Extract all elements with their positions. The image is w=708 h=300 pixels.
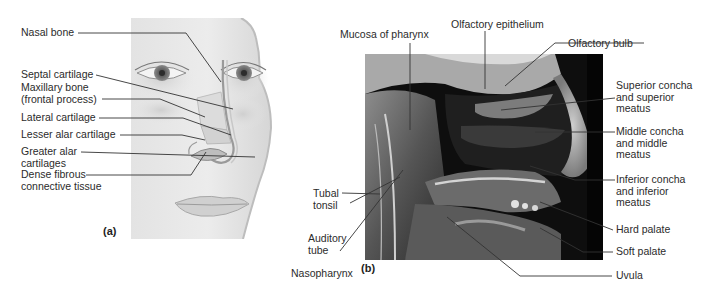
label-maxillary-bone: Maxillary bone (frontal process) — [21, 82, 97, 105]
label-dense-fibrous-line-2: connective tissue — [21, 181, 102, 193]
face-illustration — [131, 18, 292, 239]
label-superior-concha-line-1: Superior concha — [616, 80, 692, 92]
label-soft-palate: Soft palate — [616, 246, 666, 258]
label-auditory-tube-line-1: Auditory — [308, 233, 347, 245]
label-tubal-tonsil-line-2: tonsil — [313, 200, 339, 212]
label-tubal-tonsil: Tubal tonsil — [313, 188, 339, 211]
label-inferior-concha-line-1: Inferior concha — [616, 174, 685, 186]
label-greater-alar-cartilages: Greater alar cartilages — [21, 146, 77, 169]
panel-b-letter: (b) — [361, 262, 375, 274]
label-middle-concha-line-3: meatus — [616, 149, 684, 161]
label-lateral-cartilage: Lateral cartilage — [21, 112, 96, 124]
label-hard-palate: Hard palate — [616, 224, 670, 236]
label-auditory-tube-line-2: tube — [308, 245, 347, 257]
label-auditory-tube: Auditory tube — [308, 233, 347, 256]
label-greater-alar-line-1: Greater alar — [21, 146, 77, 158]
label-maxillary-bone-line-1: Maxillary bone — [21, 82, 97, 94]
label-inferior-concha: Inferior concha and inferior meatus — [616, 174, 685, 209]
label-olfactory-epithelium: Olfactory epithelium — [451, 19, 544, 31]
label-dense-fibrous-line-1: Dense fibrous — [21, 169, 102, 181]
label-uvula: Uvula — [616, 270, 643, 282]
label-inferior-concha-line-3: meatus — [616, 197, 685, 209]
label-maxillary-bone-line-2: (frontal process) — [21, 94, 97, 106]
label-middle-concha-line-1: Middle concha — [616, 126, 684, 138]
label-lesser-alar-cartilage: Lesser alar cartilage — [21, 129, 116, 141]
label-septal-cartilage: Septal cartilage — [21, 69, 93, 81]
anatomy-figure: Nasal bone Septal cartilage Maxillary bo… — [0, 0, 708, 300]
label-superior-concha: Superior concha and superior meatus — [616, 80, 692, 115]
label-nasal-bone: Nasal bone — [21, 27, 74, 39]
label-superior-concha-line-3: meatus — [616, 103, 692, 115]
label-nasopharynx: Nasopharynx — [291, 268, 353, 280]
label-mucosa-of-pharynx: Mucosa of pharynx — [340, 29, 429, 41]
dissection-photo — [365, 54, 603, 260]
label-olfactory-bulb: Olfactory bulb — [568, 38, 633, 50]
panel-a-letter: (a) — [103, 225, 116, 237]
label-tubal-tonsil-line-1: Tubal — [313, 188, 339, 200]
label-dense-fibrous-connective-tissue: Dense fibrous connective tissue — [21, 169, 102, 192]
label-middle-concha: Middle concha and middle meatus — [616, 126, 684, 161]
